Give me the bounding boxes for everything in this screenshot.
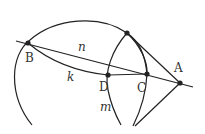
point-c <box>144 71 149 76</box>
label-a: A <box>173 61 183 75</box>
label-n: n <box>78 40 86 54</box>
point-a <box>177 80 182 85</box>
label-d: D <box>99 80 109 94</box>
label-c: C <box>137 81 146 95</box>
circle-arc-large <box>15 21 148 125</box>
point-d <box>105 72 110 77</box>
label-m: m <box>100 100 111 114</box>
diagram-svg: B A D C n k m <box>0 0 205 134</box>
tangent-upper <box>127 33 180 83</box>
point-b <box>25 40 30 45</box>
arc-m-right <box>127 33 147 126</box>
label-k: k <box>67 70 74 84</box>
point-top <box>124 30 129 35</box>
segment-dc <box>108 74 147 75</box>
label-b: B <box>25 51 34 65</box>
geometry-diagram: B A D C n k m <box>0 0 205 134</box>
